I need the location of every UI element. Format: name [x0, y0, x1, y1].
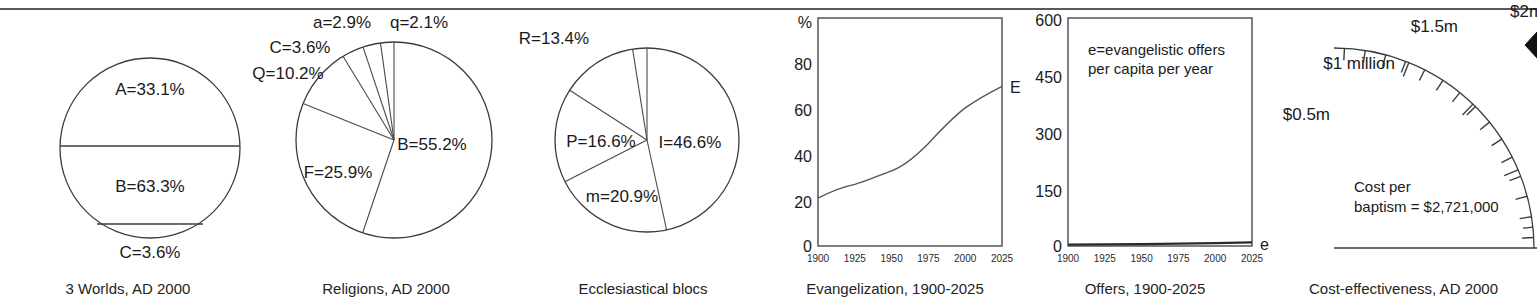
gauge-label-1-million: $1 million	[1323, 54, 1395, 73]
gauge-note-line-1: Cost per	[1354, 178, 1411, 195]
offers-ytick-300: 300	[1035, 126, 1062, 143]
evangelization-xtick-1950: 1950	[880, 253, 903, 264]
ecclesiastical-label-p: P=16.6%	[566, 132, 635, 151]
religions-divider-f-q	[303, 103, 394, 140]
panel-offers: 600 450 300 150 0 1900 1925 1950 1975 20…	[1020, 0, 1270, 301]
evangelization-ytick-60: 60	[794, 102, 812, 119]
ecclesiastical-label-r: R=13.4%	[519, 29, 589, 48]
gauge-needle-arrowhead	[1525, 32, 1537, 58]
offers-series-e-marker: e	[1260, 236, 1269, 253]
religions-label-b: B=55.2%	[397, 135, 466, 154]
ecclesiastical-label-m: m=20.9%	[586, 187, 658, 206]
evangelization-xtick-1975: 1975	[917, 253, 940, 264]
evangelization-ytick-80: 80	[794, 56, 812, 73]
panel-religions: B=55.2% F=25.9% Q=10.2% C=3.6% a=2.9% q=…	[256, 0, 516, 301]
offers-note-line-1: e=evangelistic offers	[1088, 41, 1225, 58]
offers-note-line-2: per capita per year	[1088, 60, 1213, 77]
ecclesiastical-divider-i-m	[647, 140, 667, 230]
offers-line-chart: 600 450 300 150 0 1900 1925 1950 1975 20…	[1020, 0, 1270, 285]
offers-xtick-1950: 1950	[1130, 253, 1153, 264]
caption-three-worlds: 3 Worlds, AD 2000	[0, 280, 256, 297]
worlds-label-c: C=3.6%	[120, 243, 181, 262]
evangelization-plot-frame	[818, 18, 1002, 246]
gauge-label-0-5m: $0.5m	[1283, 105, 1330, 124]
religions-divider-a-q	[381, 43, 395, 140]
caption-ecclesiastical-blocs: Ecclesiastical blocs	[516, 280, 770, 297]
ecclesiastical-divider-r-other	[633, 49, 647, 140]
evangelization-xtick-1900: 1900	[807, 253, 830, 264]
offers-xtick-1900: 1900	[1057, 253, 1080, 264]
religions-pie-chart: B=55.2% F=25.9% Q=10.2% C=3.6% a=2.9% q=…	[256, 0, 516, 280]
panel-cost-effectiveness: $0.5m $1 million $1.5m $2m Cost per bapt…	[1270, 0, 1537, 301]
offers-ytick-450: 450	[1035, 69, 1062, 86]
religions-divider-b-f	[363, 140, 394, 233]
offers-xtick-1925: 1925	[1094, 253, 1117, 264]
ecclesiastical-pie-chart: I=46.6% m=20.9% P=16.6% R=13.4%	[516, 0, 770, 280]
offers-xtick-1975: 1975	[1167, 253, 1190, 264]
religions-label-q-large: Q=10.2%	[252, 64, 323, 83]
evangelization-xtick-2000: 2000	[954, 253, 977, 264]
statistics-figure: A=33.1% B=63.3% C=3.6% 3 Worlds, AD 2000…	[0, 0, 1537, 301]
caption-evangelization: Evangelization, 1900-2025	[770, 280, 1020, 297]
worlds-label-a: A=33.1%	[115, 80, 184, 99]
gauge-label-2m: $2m	[1510, 2, 1537, 21]
gauge-arc	[1334, 48, 1534, 248]
religions-divider-c-a	[363, 47, 394, 140]
offers-ytick-600: 600	[1035, 12, 1062, 29]
panel-three-worlds: A=33.1% B=63.3% C=3.6% 3 Worlds, AD 2000	[0, 0, 256, 301]
evangelization-ytick-40: 40	[794, 148, 812, 165]
religions-label-f: F=25.9%	[304, 163, 373, 182]
gauge-note-line-2: baptism = $2,721,000	[1354, 198, 1499, 215]
religions-divider-q-c	[343, 56, 394, 140]
caption-cost-effectiveness: Cost-effectiveness, AD 2000	[1270, 280, 1537, 297]
evangelization-xtick-2025: 2025	[991, 253, 1014, 264]
panel-evangelization: % 80 60 40 20 0 1900 1925 1950 1975 2000…	[770, 0, 1020, 301]
ecclesiastical-label-i: I=46.6%	[659, 133, 722, 152]
religions-label-c: C=3.6%	[270, 38, 331, 57]
offers-xtick-2000: 2000	[1204, 253, 1227, 264]
religions-label-a: a=2.9%	[313, 13, 371, 32]
evangelization-line-chart: % 80 60 40 20 0 1900 1925 1950 1975 2000…	[770, 0, 1020, 285]
caption-religions: Religions, AD 2000	[256, 280, 516, 297]
gauge-label-1-5m: $1.5m	[1411, 17, 1458, 36]
evangelization-xtick-1925: 1925	[844, 253, 867, 264]
religions-label-q-small: q=2.1%	[390, 13, 448, 32]
offers-ytick-150: 150	[1035, 183, 1062, 200]
cost-effectiveness-gauge: $0.5m $1 million $1.5m $2m Cost per bapt…	[1270, 0, 1537, 285]
panel-ecclesiastical-blocs: I=46.6% m=20.9% P=16.6% R=13.4% Ecclesia…	[516, 0, 770, 301]
worlds-label-b: B=63.3%	[115, 177, 184, 196]
evangelization-ytick-20: 20	[794, 194, 812, 211]
caption-offers: Offers, 1900-2025	[1020, 280, 1270, 297]
evangelization-series-e-line	[818, 86, 1002, 198]
evangelization-y-unit: %	[798, 14, 812, 31]
offers-series-e-line	[1068, 242, 1252, 244]
three-worlds-circle-chart: A=33.1% B=63.3% C=3.6%	[0, 0, 256, 280]
offers-xtick-2025: 2025	[1241, 253, 1264, 264]
